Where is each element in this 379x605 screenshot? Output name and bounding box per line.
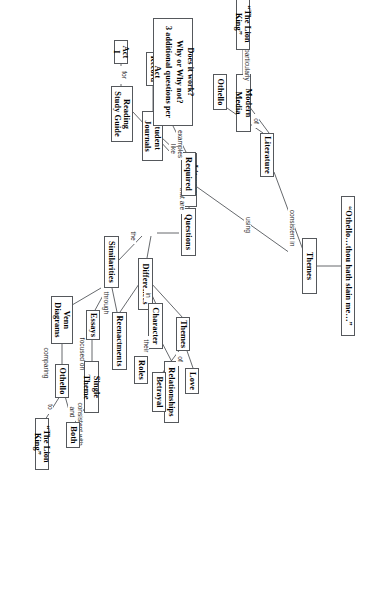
concept-map-canvas: “Othello…thou hath slain me…” Themes con…: [0, 0, 379, 605]
node-betrayal-label: Betrayal: [154, 376, 163, 407]
node-quote[interactable]: “Othello…thou hath slain me…”: [341, 196, 355, 336]
node-roles[interactable]: Roles: [134, 356, 148, 384]
diagram-viewport: “Othello…thou hath slain me…” Themes con…: [0, 0, 379, 605]
node-othello-top-label: Othello: [215, 79, 224, 106]
node-lion-king-top[interactable]: “The Lion King”: [236, 0, 250, 50]
node-character-label: Character: [151, 307, 160, 344]
node-venn-diagrams-label: Venn Diagrams: [53, 299, 72, 341]
node-single-theme[interactable]: Single Theme: [84, 361, 99, 413]
node-both[interactable]: Both: [66, 422, 80, 448]
node-relationships-label: Relationships: [167, 367, 176, 416]
link-label-examples: examples: [176, 128, 183, 160]
node-love[interactable]: Love: [185, 368, 199, 394]
link-label-through: through: [102, 288, 109, 318]
link-label-of-literature: of: [252, 114, 259, 128]
node-act-i[interactable]: Act I: [114, 40, 128, 64]
link-label-consistent-in: consistent in: [288, 196, 295, 260]
link-label-comparing: comparing: [42, 344, 49, 382]
node-reenactments[interactable]: Reenactments: [112, 312, 127, 370]
link-label-the: the: [129, 228, 136, 244]
node-single-theme-label: Single Theme: [82, 364, 101, 410]
link-label-for: for: [120, 66, 127, 84]
node-essays-label: Essays: [88, 313, 97, 337]
link-label-of-themes: of: [176, 352, 183, 366]
link-label-in: in: [144, 288, 151, 302]
node-literature-label: Literature: [262, 136, 271, 174]
node-lion-king-bottom-label: “The Lion King”: [33, 421, 52, 467]
node-reading-study-guide-label: Reading Study Guide: [113, 89, 132, 139]
node-similarities-label: Similarities: [107, 241, 116, 283]
node-love-label: Love: [187, 372, 196, 390]
node-followup-questions-note[interactable]: Does it work? Why or Why not? 3 addition…: [153, 18, 193, 126]
node-act-i-label: Act I: [112, 43, 131, 61]
node-othello-top[interactable]: Othello: [213, 74, 227, 110]
node-questions-label: Questions: [184, 214, 193, 250]
node-character[interactable]: Character: [148, 303, 163, 349]
node-reading-study-guide[interactable]: Reading Study Guide: [111, 86, 133, 142]
node-similarities[interactable]: Similarities: [104, 236, 119, 288]
node-relationships[interactable]: Relationships: [164, 361, 179, 423]
node-themes-root-label: Themes: [305, 252, 314, 280]
node-venn-diagrams[interactable]: Venn Diagrams: [51, 296, 73, 344]
link-label-and: and: [68, 402, 75, 422]
link-label-to-compare: to: [46, 400, 53, 414]
node-themes-root[interactable]: Themes: [302, 238, 317, 294]
node-essays[interactable]: Essays: [86, 310, 100, 340]
node-othello-bottom-label: Othello: [57, 368, 66, 395]
node-modern-media[interactable]: Modern Media: [236, 74, 251, 132]
node-themes-sub-label: Themes: [178, 320, 187, 348]
node-quote-label: “Othello…thou hath slain me…”: [343, 206, 352, 326]
node-lion-king-bottom[interactable]: “The Lion King”: [35, 418, 49, 470]
node-required[interactable]: Required: [181, 152, 196, 196]
node-lion-king-top-label: “The Lion King”: [234, 1, 253, 47]
node-required-label: Required: [184, 157, 193, 191]
node-literature[interactable]: Literature: [260, 133, 274, 177]
link-label-using: using: [244, 212, 251, 238]
link-label-their: their: [142, 336, 149, 356]
link-label-like: like: [169, 140, 176, 158]
node-othello-bottom[interactable]: Othello: [55, 364, 69, 398]
node-roles-label: Roles: [136, 360, 145, 380]
node-followup-questions-note-label: Does it work? Why or Why not? 3 addition…: [151, 24, 195, 120]
node-themes-sub[interactable]: Themes: [176, 317, 190, 351]
node-questions[interactable]: Questions: [181, 208, 196, 256]
node-reenactments-label: Reenactments: [115, 316, 124, 367]
node-modern-media-label: Modern Media: [234, 77, 253, 129]
node-both-label: Both: [68, 426, 77, 443]
link-label-particularly: particularly: [243, 48, 250, 78]
node-betrayal[interactable]: Betrayal: [152, 372, 166, 412]
